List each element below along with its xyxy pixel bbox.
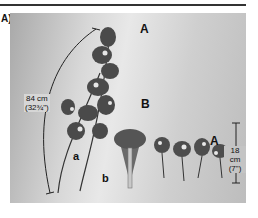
measurement-short: 18 cm (7") — [224, 146, 246, 173]
label-b-upper: B — [141, 97, 150, 111]
label-a-lower: a — [73, 150, 79, 162]
measurement-short-imperial: (7") — [225, 164, 245, 173]
measurement-long-metric: 84 cm — [25, 94, 49, 103]
label-a-top: A — [140, 22, 149, 36]
label-a-right: A — [210, 134, 219, 148]
measurement-long-imperial: (32¾") — [25, 103, 49, 112]
measurement-long: 84 cm (32¾") — [24, 94, 50, 112]
plant-photo: A B A a b 84 cm (32¾") 18 cm (7") — [10, 13, 246, 203]
label-b-lower: b — [102, 172, 109, 184]
top-rule — [0, 4, 246, 6]
measurement-short-metric: 18 cm — [225, 146, 245, 164]
